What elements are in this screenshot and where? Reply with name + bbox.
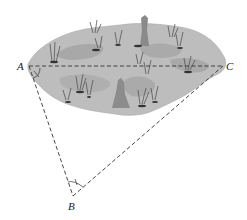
angle-mark-b: [68, 182, 83, 187]
angle-tick-b: [75, 179, 77, 185]
swamp-illustration: [28, 15, 226, 115]
label-a: A: [16, 60, 24, 72]
label-c: C: [226, 60, 234, 72]
label-b: B: [68, 200, 75, 212]
swamp-triangle-diagram: A C B: [0, 0, 247, 220]
